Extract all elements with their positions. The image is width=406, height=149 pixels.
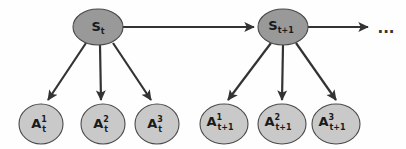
action-t1-3-superscript: 3 [328,113,334,122]
action-t-1-base: A [31,116,41,131]
edge-state-t-to-action-t-3 [113,43,151,100]
state-t1-base: S [268,18,277,33]
node-action-t1-1[interactable]: A1t+1 [200,104,248,144]
action-t-2-superscript: 2 [103,115,109,124]
action-t-1-subscript: t [42,125,46,134]
edge-state-t-to-action-t-2 [100,45,101,100]
node-action-t1-3[interactable]: A3t+1 [312,104,360,144]
state-t-subscript: t [101,27,105,36]
node-state-t1[interactable]: St+1 [258,9,308,45]
action-t1-3-subscript: t+1 [330,123,347,132]
action-t-3-superscript: 3 [157,115,163,124]
node-state-t[interactable]: St [73,9,123,45]
action-t1-2-base: A [264,114,274,129]
node-action-t-2[interactable]: A2t [81,104,125,144]
node-action-t1-2[interactable]: A2t+1 [258,104,306,144]
action-t1-2-superscript: 2 [274,113,280,122]
state-t1-subscript: t+1 [278,26,295,35]
action-t-2-base: A [93,116,103,131]
action-t-2-subscript: t [104,125,108,134]
edge-state-t1-to-action-t1-1 [228,43,271,100]
action-t1-1-subscript: t+1 [218,123,235,132]
action-t-1-superscript: 1 [41,115,47,124]
edge-state-t-to-action-t-1 [48,43,86,100]
action-t1-1-base: A [206,114,216,129]
action-t-3-subscript: t [158,125,162,134]
node-action-t-1[interactable]: A1t [19,104,63,144]
dbn-diagram: St St+1 A1t A2t A3t [0,0,406,149]
state-t-base: S [91,19,100,34]
node-action-t-3[interactable]: A3t [135,104,179,144]
action-t1-1-superscript: 1 [216,113,222,122]
edge-state-t1-to-action-t1-3 [296,43,336,100]
continuation-ellipsis: ... [377,19,394,37]
action-t1-3-base: A [318,114,328,129]
edge-state-t1-to-action-t1-2 [282,45,283,100]
action-t1-2-subscript: t+1 [276,123,293,132]
action-t-3-base: A [147,116,157,131]
